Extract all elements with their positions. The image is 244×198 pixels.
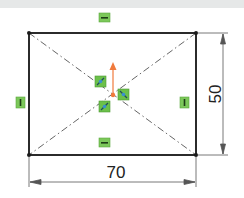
relation-horizontal-icon[interactable] [99,13,110,22]
corner-point-bottom-right[interactable] [194,153,198,157]
corner-point-bottom-left[interactable] [27,153,31,157]
relation-midpoint-icon[interactable] [95,76,106,87]
sketch-canvas[interactable]: 50 70 [0,0,244,198]
sketch-origin-icon[interactable] [110,62,117,97]
dimension-height-label[interactable]: 50 [206,85,225,104]
arrowhead-down-icon [221,144,226,154]
origin-arrow-icon [110,62,117,70]
arrowhead-up-icon [221,34,226,44]
dimension-width-label[interactable]: 70 [107,163,126,182]
relation-midpoint-icon[interactable] [118,89,129,100]
arrowhead-right-icon [184,180,195,185]
corner-point-top-left[interactable] [27,31,31,35]
relation-vertical-icon[interactable] [16,97,25,108]
arrowhead-left-icon [30,180,41,185]
relation-midpoint-icon[interactable] [99,101,110,112]
relation-vertical-icon[interactable] [180,97,189,108]
relation-horizontal-icon[interactable] [99,138,110,147]
corner-point-top-right[interactable] [194,31,198,35]
